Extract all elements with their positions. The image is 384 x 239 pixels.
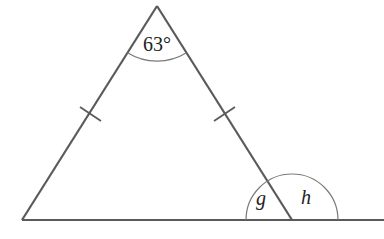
triangle-diagram: 63° g h [0, 0, 384, 239]
tick-mark-right [214, 107, 235, 121]
apex-angle-label: 63° [143, 33, 171, 55]
tick-mark-left [80, 107, 101, 121]
angle-h-label: h [301, 186, 311, 208]
angle-g-label: g [256, 187, 266, 210]
